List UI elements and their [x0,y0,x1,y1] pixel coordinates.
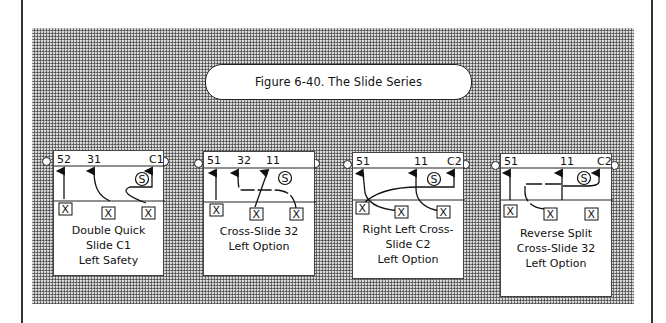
svg-text:X: X [62,203,70,216]
position-label: C2 [447,155,462,168]
svg-text:X: X [253,208,261,221]
route-path [525,184,561,209]
frame-left-border [21,0,23,323]
x-box: X [210,204,223,217]
position-label: C2 [597,155,612,168]
play-diagram: 51 32 11 S X X X [204,152,316,277]
safety-label: S [139,173,146,186]
x-box: X [437,206,450,219]
x-box: X [102,207,115,220]
svg-text:X: X [440,206,448,219]
play-panel-cross-slide-32: 51 32 11 S X X X Cross-Slide 32 Left Opt… [203,151,315,276]
play-caption: Reverse Split Cross-Slide 32 Left Option [501,226,611,271]
end-node-left [42,157,51,166]
position-label: 11 [414,155,428,168]
x-box: X [504,205,517,218]
end-node-left [343,160,352,169]
figure-title: Figure 6-40. The Slide Series [205,64,472,100]
position-label: 51 [356,155,370,168]
play-panel-reverse-split-cross-slide-32: 51 11 C2 S X X X Reverse Split Cross-Sli… [500,153,612,297]
position-label: 31 [87,153,101,166]
x-box: X [356,202,369,215]
end-node-left [491,161,500,170]
svg-text:X: X [359,202,367,215]
x-box: X [395,206,408,219]
x-box: X [142,207,155,220]
figure-title-text: Figure 6-40. The Slide Series [255,75,422,89]
position-label: 51 [504,155,518,168]
svg-text:X: X [547,208,555,221]
svg-text:X: X [507,205,515,218]
svg-text:X: X [588,208,596,221]
safety-label: S [431,173,438,186]
play-caption: Double Quick Slide C1 Left Safety [54,223,163,268]
safety-label: S [282,172,289,185]
play-panel-double-quick-slide-c1: 52 31 C1 S X X X Double Quick Slide C1 L… [53,150,164,276]
frame-right-border [651,0,653,323]
position-label: 11 [560,155,574,168]
position-label: 52 [57,153,71,166]
safety-label: S [581,172,588,185]
svg-text:X: X [398,206,406,219]
x-box: X [59,203,72,216]
position-label: 11 [266,154,280,167]
x-box: X [290,208,303,221]
svg-text:X: X [145,207,153,220]
x-box: X [585,208,598,221]
position-label: 51 [207,154,221,167]
play-caption: Cross-Slide 32 Left Option [204,224,314,254]
svg-text:X: X [293,208,301,221]
svg-text:X: X [105,207,113,220]
svg-text:X: X [213,204,221,217]
x-box: X [544,208,557,221]
end-node-left [194,159,203,168]
play-panel-right-left-cross-slide-c2: 51 11 C2 S X X X Right Left Cross- Slide… [352,152,464,279]
x-box: X [250,208,263,221]
position-label: 32 [237,154,251,167]
position-label: C1 [149,153,164,166]
play-caption: Right Left Cross- Slide C2 Left Option [353,222,463,267]
route-arrow [94,171,110,201]
